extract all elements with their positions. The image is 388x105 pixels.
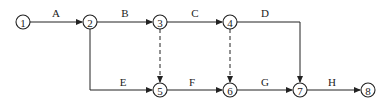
svg-text:2: 2 <box>87 17 93 29</box>
svg-text:4: 4 <box>227 17 233 29</box>
activity-d-arrow <box>237 22 300 82</box>
svg-text:3: 3 <box>157 17 163 29</box>
node-5: 5 <box>153 83 167 97</box>
activity-label: H <box>328 76 336 88</box>
node-3: 3 <box>153 15 167 29</box>
activity-label: E <box>120 76 127 88</box>
node-1: 1 <box>16 15 30 29</box>
svg-text:1: 1 <box>20 17 26 29</box>
svg-text:5: 5 <box>157 85 163 97</box>
node-2: 2 <box>83 15 97 29</box>
activity-label: G <box>261 76 269 88</box>
activity-label: C <box>191 7 198 19</box>
svg-text:8: 8 <box>365 85 371 97</box>
svg-text:7: 7 <box>297 85 303 97</box>
node-7: 7 <box>293 83 307 97</box>
activity-label: A <box>52 7 60 19</box>
svg-text:6: 6 <box>227 85 233 97</box>
activity-label: D <box>261 7 269 19</box>
node-6: 6 <box>223 83 237 97</box>
activity-label: B <box>121 7 128 19</box>
network-diagram: A B C D E F G H 1 2 3 4 5 6 7 8 <box>0 0 388 105</box>
activity-label: F <box>189 76 195 88</box>
node-8: 8 <box>361 83 375 97</box>
node-4: 4 <box>223 15 237 29</box>
